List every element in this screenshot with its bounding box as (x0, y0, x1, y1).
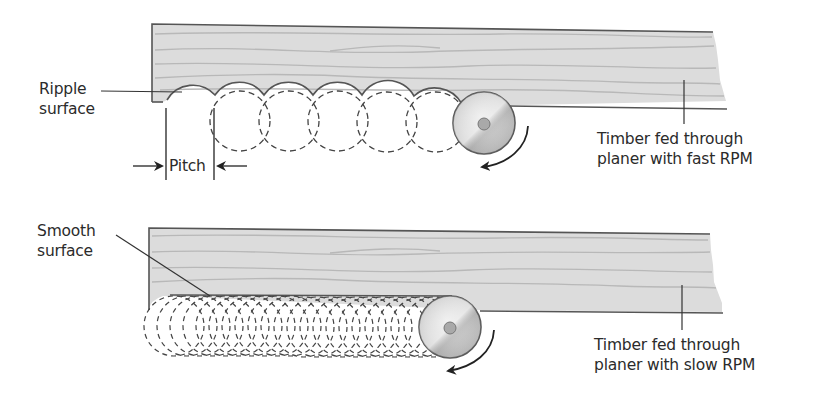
caption-fast-rpm: Timber fed through planer with fast RPM (597, 129, 753, 169)
cutter-spindle-icon (444, 322, 456, 334)
label-line: surface (37, 241, 96, 261)
caption-line: planer with fast RPM (597, 149, 753, 169)
cutter-head-slow (419, 296, 481, 358)
pitch-label: Pitch (169, 156, 206, 176)
caption-line: planer with slow RPM (594, 355, 755, 375)
cutter-path-circles-dashed-dense (144, 296, 464, 357)
ripple-surface-label: Ripple surface (39, 79, 95, 119)
caption-line: Timber fed through (594, 335, 755, 355)
cutter-head-fast (453, 92, 515, 154)
smooth-surface-label: Smooth surface (37, 221, 96, 261)
label-line: surface (39, 99, 95, 119)
label-line: Smooth (37, 221, 96, 241)
caption-slow-rpm: Timber fed through planer with slow RPM (594, 335, 755, 375)
cutter-spindle-icon (478, 118, 490, 130)
label-line: Ripple (39, 79, 95, 99)
caption-line: Timber fed through (597, 129, 753, 149)
cutter-path-circles-dashed (210, 91, 466, 152)
